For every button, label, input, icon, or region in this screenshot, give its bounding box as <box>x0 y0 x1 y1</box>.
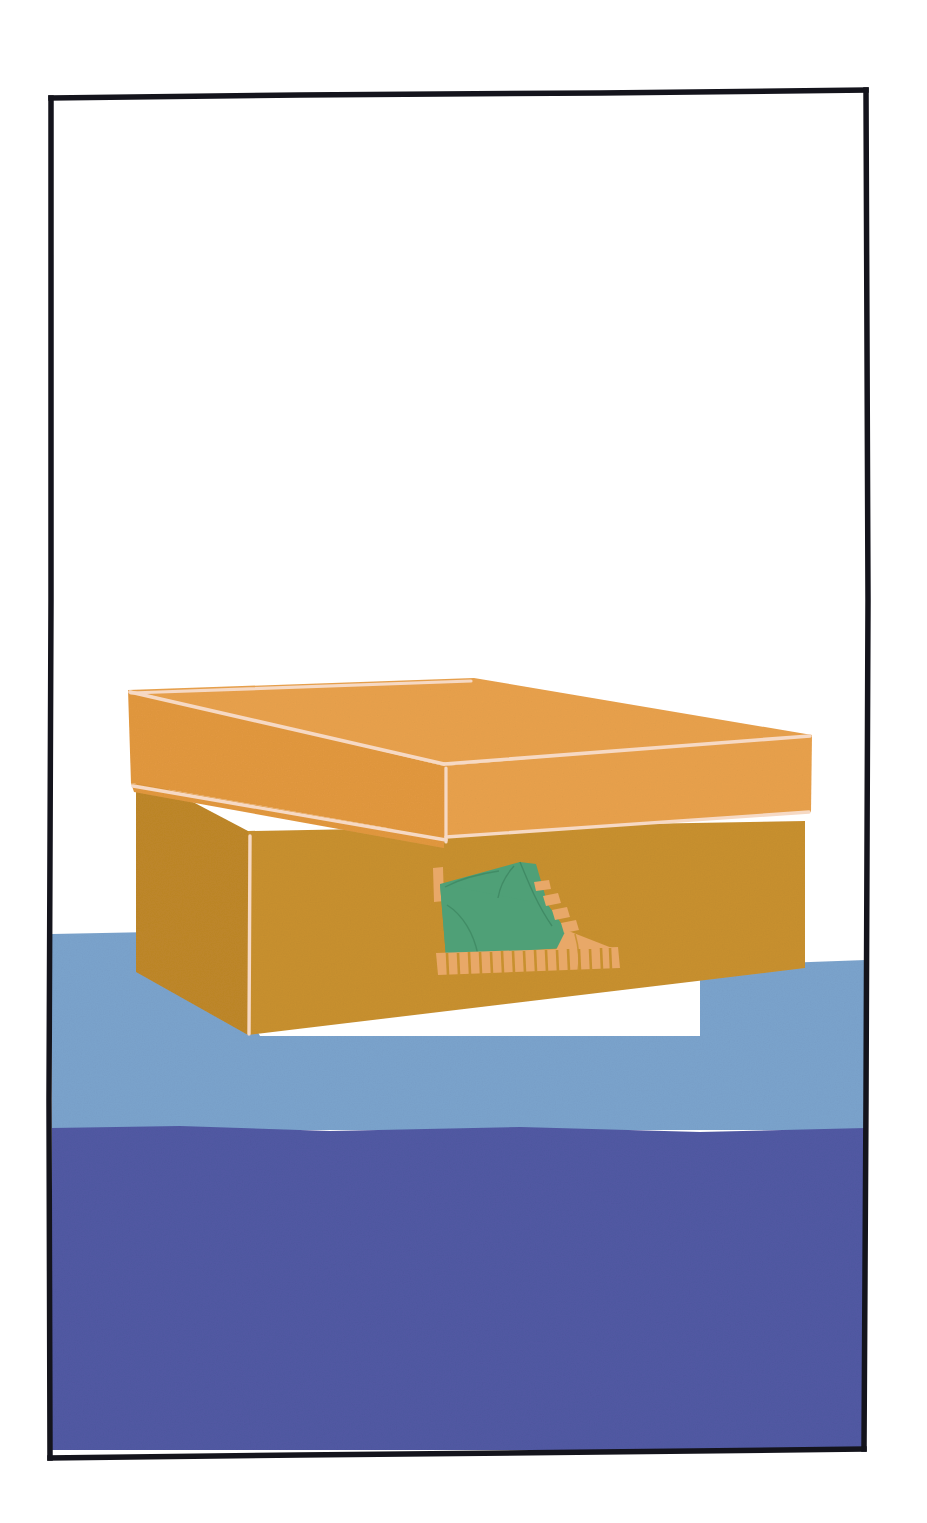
tread-stripe <box>469 952 470 974</box>
tread-stripe <box>502 951 503 973</box>
tread-stripe <box>458 953 459 975</box>
frame-right-edge <box>864 90 868 1449</box>
tread-stripe <box>480 952 481 974</box>
tread-stripe <box>601 948 602 970</box>
tread-stripe <box>513 951 514 973</box>
tread-stripe <box>524 951 525 973</box>
tread-stripe <box>557 950 558 972</box>
tread-stripe <box>491 952 492 974</box>
tread-stripe <box>546 950 547 972</box>
illustration-artboard: Shoebox with sneaker graphic green high-… <box>0 0 927 1523</box>
frame-left-edge <box>49 98 51 1458</box>
box-corner-seam <box>249 836 250 1034</box>
tread-stripe <box>590 949 591 971</box>
tread-stripe <box>610 948 611 970</box>
lower-floor-band <box>52 1126 866 1450</box>
tread-stripe <box>447 953 448 975</box>
box-edge-highlights <box>249 836 250 1034</box>
tread-stripe <box>568 949 569 971</box>
shoebox-illustration <box>0 0 927 1523</box>
tread-stripe <box>535 950 536 972</box>
